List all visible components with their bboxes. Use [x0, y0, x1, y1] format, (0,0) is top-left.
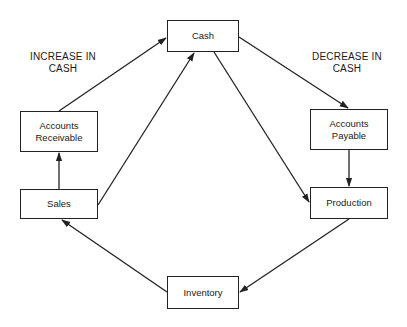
- node-cash-label: Cash: [192, 30, 214, 42]
- node-accounts-payable-label: Accounts Payable: [329, 118, 368, 142]
- edge-inventory-to-sales: [62, 220, 167, 292]
- increase-in-cash-label: INCREASE IN CASH: [22, 51, 104, 75]
- node-accounts-payable: Accounts Payable: [310, 109, 388, 150]
- node-production: Production: [310, 187, 388, 219]
- node-sales-label: Sales: [47, 198, 71, 210]
- node-inventory-label: Inventory: [183, 287, 222, 299]
- node-accounts-receivable-label: Accounts Receivable: [36, 120, 83, 144]
- node-cash: Cash: [167, 20, 239, 52]
- node-sales: Sales: [20, 189, 98, 219]
- decrease-in-cash-label: DECREASE IN CASH: [306, 51, 388, 75]
- node-inventory: Inventory: [167, 276, 239, 309]
- node-production-label: Production: [326, 197, 371, 209]
- edge-cash-to-production: [214, 52, 309, 202]
- node-accounts-receivable: Accounts Receivable: [20, 111, 98, 152]
- edge-sales-to-cash: [98, 53, 194, 205]
- edge-production-to-inventory: [240, 219, 349, 292]
